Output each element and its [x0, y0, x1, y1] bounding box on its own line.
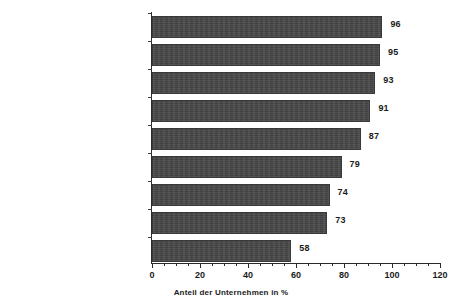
x-axis-minor-tick: [380, 263, 381, 266]
x-axis-minor-tick: [332, 263, 333, 266]
x-axis-title-label: Anteil der Unternehmen in %: [174, 288, 289, 297]
x-axis-minor-tick: [224, 263, 225, 266]
x-axis-minor-tick: [236, 263, 237, 266]
plot-area: 96Bekanntheit steigern95Stammkundenpfleg…: [152, 12, 440, 264]
x-axis-tick-label: 40: [243, 270, 253, 280]
bar: [152, 240, 291, 262]
bar-row: 87Präsentation neuer Produkte, Leistunge…: [152, 125, 440, 153]
y-axis-tick: [148, 237, 152, 238]
bar-value-label: 58: [299, 243, 309, 253]
x-axis-tick-label: 120: [432, 270, 447, 280]
x-axis-minor-tick: [404, 263, 405, 266]
bar-value-label: 74: [338, 187, 348, 197]
x-axis-minor-tick: [416, 263, 417, 266]
y-axis-tick: [148, 69, 152, 70]
bar: [152, 44, 380, 66]
y-axis-tick: [148, 13, 152, 14]
bar-row: 95Stammkundenpflege: [152, 41, 440, 69]
bar-row: 58Aufbau neuer Vertriebswege: [152, 237, 440, 265]
x-axis-minor-tick: [260, 263, 261, 266]
x-axis-minor-tick: [212, 263, 213, 266]
bar: [152, 16, 382, 38]
x-axis-major-tick: [248, 263, 249, 268]
x-axis-minor-tick: [272, 263, 273, 266]
x-axis-major-tick: [392, 263, 393, 268]
bar-value-label: 93: [383, 75, 393, 85]
bar: [152, 128, 361, 150]
bar-row: 74Neue Kooperationspartner: [152, 181, 440, 209]
y-axis-tick: [148, 181, 152, 182]
bar-row: 96Bekanntheit steigern: [152, 13, 440, 41]
bar: [152, 100, 370, 122]
y-axis-tick: [148, 97, 152, 98]
x-axis-tick-label: 100: [384, 270, 399, 280]
x-axis-minor-tick: [368, 263, 369, 266]
x-axis-minor-tick: [164, 263, 165, 266]
x-axis-tick-label: 60: [291, 270, 301, 280]
bar: [152, 184, 330, 206]
x-axis-major-tick: [200, 263, 201, 268]
bar: [152, 72, 375, 94]
bar-row: 93Neukundengewinnung: [152, 69, 440, 97]
x-axis-minor-tick: [428, 263, 429, 266]
x-axis-tick-label: 80: [339, 270, 349, 280]
x-axis-minor-tick: [188, 263, 189, 266]
x-axis-major-tick: [440, 263, 441, 268]
bar-row: 91Imageverbesserung Unternehmen, Marken: [152, 97, 440, 125]
bar-value-label: 79: [350, 159, 360, 169]
x-axis-minor-tick: [356, 263, 357, 266]
x-axis-title: Anteil der Unternehmen in %: [0, 288, 462, 297]
bar: [152, 156, 342, 178]
x-axis-minor-tick: [284, 263, 285, 266]
bar-value-label: 73: [335, 215, 345, 225]
x-axis-minor-tick: [320, 263, 321, 266]
bar-value-label: 91: [378, 103, 388, 113]
y-axis-tick: [148, 153, 152, 154]
bar-value-label: 96: [390, 19, 400, 29]
bar-row: 79Erschließung neuer Märkte: [152, 153, 440, 181]
y-axis-tick: [148, 209, 152, 210]
bar: [152, 212, 327, 234]
y-axis-tick: [148, 41, 152, 42]
x-axis-tick-label: 20: [195, 270, 205, 280]
x-axis-tick-label: 0: [149, 270, 154, 280]
bar-value-label: 87: [369, 131, 379, 141]
bar-chart: 96Bekanntheit steigern95Stammkundenpfleg…: [0, 0, 462, 304]
y-axis-tick: [148, 125, 152, 126]
x-axis-major-tick: [344, 263, 345, 268]
bar-row: 73Verkaufs- und Vertragsabschlüsse: [152, 209, 440, 237]
bar-value-label: 95: [388, 47, 398, 57]
x-axis-minor-tick: [176, 263, 177, 266]
x-axis-major-tick: [152, 263, 153, 268]
x-axis-minor-tick: [308, 263, 309, 266]
x-axis-major-tick: [296, 263, 297, 268]
